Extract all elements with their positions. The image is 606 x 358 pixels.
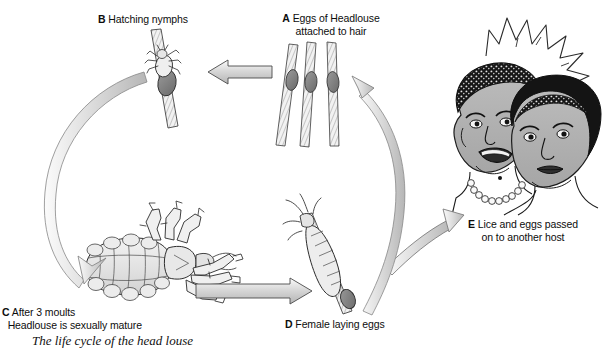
life-cycle-diagram: A Eggs of Headlouseattached to hair B Ha…: [0, 0, 606, 358]
illustration-two-heads: [452, 18, 601, 215]
label-stage-c-line1: After 3 moults: [12, 306, 75, 318]
diagram-artwork: [0, 0, 606, 358]
arrow-e-to-a: [352, 76, 405, 315]
label-stage-b: B Hatching nymphs: [98, 13, 188, 26]
label-stage-b-line1: Hatching nymphs: [108, 13, 188, 25]
label-stage-d-key: D: [285, 318, 292, 330]
label-stage-e-key: E: [468, 218, 475, 230]
label-stage-c: C After 3 moults Headlouse is sexually m…: [2, 306, 142, 331]
label-stage-d-line1: Female laying eggs: [295, 318, 384, 330]
label-stage-a-key: A: [282, 12, 289, 24]
label-stage-e-line2: on to another host: [482, 231, 565, 243]
label-stage-b-key: B: [98, 13, 105, 25]
illustration-eggs-on-hair: [276, 42, 340, 147]
illustration-hatching-nymph: [145, 29, 181, 128]
pearl-necklace: [468, 180, 526, 205]
label-stage-e-line1: Lice and eggs passed: [478, 218, 578, 230]
label-stage-a-line1: Eggs of Headlouse: [293, 12, 380, 24]
figure-caption: The life cycle of the head louse: [32, 333, 193, 349]
label-stage-c-key: C: [2, 306, 9, 318]
label-stage-d: D Female laying eggs: [285, 318, 385, 331]
arrow-a-to-b: [208, 60, 272, 84]
label-stage-e: E Lice and eggs passedon to another host: [447, 218, 599, 243]
label-stage-c-line2: Headlouse is sexually mature: [8, 319, 142, 331]
label-stage-a-line2: attached to hair: [296, 25, 367, 37]
label-stage-a: A Eggs of Headlouseattached to hair: [271, 12, 391, 37]
